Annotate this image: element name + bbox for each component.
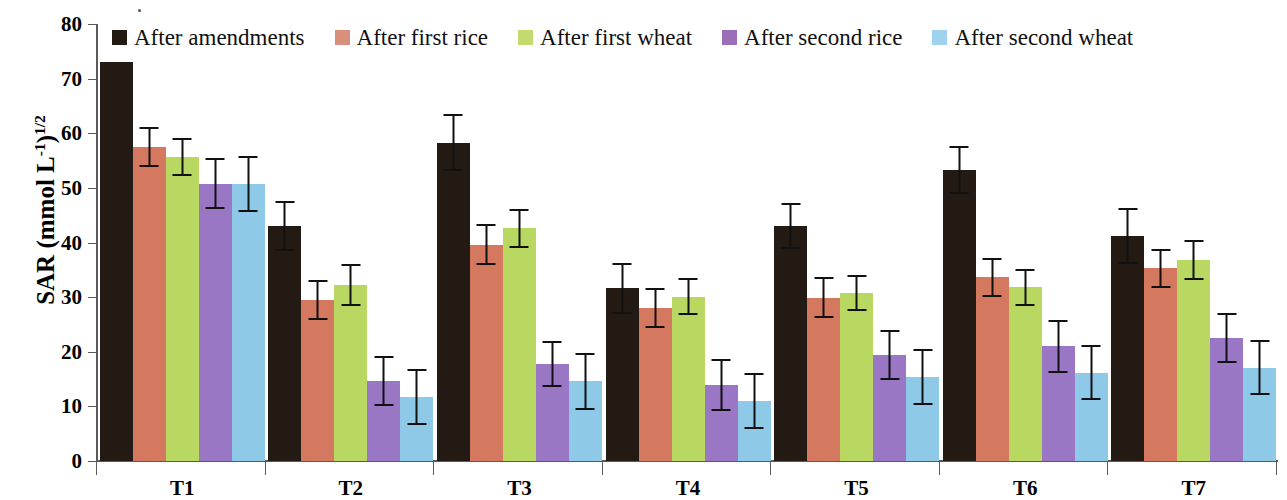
bar[interactable] bbox=[437, 143, 470, 461]
error-bar-cap-bottom bbox=[1217, 361, 1236, 363]
bar[interactable] bbox=[976, 277, 1009, 461]
error-bar-cap-bottom bbox=[576, 408, 595, 410]
bar-group bbox=[435, 24, 604, 461]
error-bar-stem bbox=[1057, 320, 1059, 372]
bar[interactable] bbox=[232, 184, 265, 461]
error-bar bbox=[206, 158, 225, 208]
y-axis-tick-label: 50 bbox=[22, 176, 82, 201]
error-bar bbox=[444, 114, 463, 171]
error-bar-stem bbox=[1259, 340, 1261, 396]
bar-slot bbox=[873, 24, 906, 461]
bar[interactable] bbox=[774, 226, 807, 461]
error-bar-stem bbox=[1024, 269, 1026, 306]
error-bar-cap-bottom bbox=[173, 174, 192, 176]
error-bar-stem bbox=[1090, 345, 1092, 400]
bar[interactable] bbox=[470, 245, 503, 461]
bar[interactable] bbox=[1177, 260, 1210, 461]
bar[interactable] bbox=[301, 300, 334, 461]
error-bar-stem bbox=[214, 158, 216, 208]
error-bar bbox=[781, 203, 800, 249]
error-bar-cap-top bbox=[847, 275, 866, 277]
error-bar-stem bbox=[720, 359, 722, 410]
error-bar-cap-bottom bbox=[477, 263, 496, 265]
x-axis-labels: T1T2T3T4T5T6T7 bbox=[98, 476, 1278, 500]
error-bar bbox=[407, 369, 426, 425]
x-axis-label: T7 bbox=[1109, 476, 1278, 500]
error-bar-cap-top bbox=[1184, 240, 1203, 242]
error-bar-cap-top bbox=[1151, 249, 1170, 251]
bar-slot bbox=[906, 24, 939, 461]
y-axis-tick bbox=[88, 133, 97, 134]
bar[interactable] bbox=[1009, 287, 1042, 461]
bar[interactable] bbox=[639, 308, 672, 461]
bar-slot bbox=[639, 24, 672, 461]
error-bar-stem bbox=[856, 275, 858, 311]
bar[interactable] bbox=[503, 228, 536, 461]
bar-slot bbox=[503, 24, 536, 461]
error-bar bbox=[374, 356, 393, 406]
error-bar-stem bbox=[790, 203, 792, 249]
error-bar-cap-top bbox=[880, 330, 899, 332]
error-bar bbox=[1151, 249, 1170, 288]
error-bar-cap-bottom bbox=[1082, 398, 1101, 400]
error-bar-cap-top bbox=[275, 201, 294, 203]
error-bar-cap-top bbox=[781, 203, 800, 205]
bar[interactable] bbox=[268, 226, 301, 461]
error-bar-cap-top bbox=[239, 156, 258, 158]
bar-slot bbox=[301, 24, 334, 461]
bar[interactable] bbox=[166, 157, 199, 461]
x-axis-label: T3 bbox=[435, 476, 604, 500]
error-bar-cap-top bbox=[510, 209, 529, 211]
error-bar bbox=[613, 263, 632, 313]
bar[interactable] bbox=[807, 298, 840, 461]
error-bar-stem bbox=[247, 156, 249, 212]
bar-slot bbox=[199, 24, 232, 461]
error-bar-cap-top bbox=[341, 264, 360, 266]
x-axis-ticks bbox=[96, 462, 1278, 476]
error-bar-cap-top bbox=[950, 146, 969, 148]
error-bar-cap-bottom bbox=[1049, 371, 1068, 373]
bar[interactable] bbox=[133, 147, 166, 461]
error-bar bbox=[1016, 269, 1035, 306]
error-bar-cap-bottom bbox=[543, 385, 562, 387]
error-bar bbox=[1118, 208, 1137, 265]
bar-slot bbox=[943, 24, 976, 461]
error-bar-stem bbox=[416, 369, 418, 425]
bar[interactable] bbox=[943, 170, 976, 461]
error-bar bbox=[847, 275, 866, 311]
error-bar bbox=[679, 278, 698, 315]
bar-slot bbox=[976, 24, 1009, 461]
error-bar-stem bbox=[687, 278, 689, 315]
y-axis-tick-label: 30 bbox=[22, 285, 82, 310]
bar-slot bbox=[100, 24, 133, 461]
error-bar-stem bbox=[350, 264, 352, 307]
bar[interactable] bbox=[334, 285, 367, 461]
error-bar-stem bbox=[148, 127, 150, 166]
error-bar-stem bbox=[823, 277, 825, 317]
error-bar bbox=[308, 280, 327, 320]
error-bar-cap-bottom bbox=[613, 312, 632, 314]
bar-group bbox=[604, 24, 773, 461]
bar[interactable] bbox=[672, 297, 705, 461]
bar-slot bbox=[166, 24, 199, 461]
error-bar-cap-top bbox=[913, 349, 932, 351]
error-bar bbox=[646, 288, 665, 327]
bar[interactable] bbox=[1111, 236, 1144, 461]
error-bar-cap-bottom bbox=[1151, 286, 1170, 288]
bar[interactable] bbox=[100, 62, 133, 461]
error-bar-stem bbox=[551, 341, 553, 387]
bar[interactable] bbox=[606, 288, 639, 461]
error-bar-cap-top bbox=[613, 263, 632, 265]
error-bar-stem bbox=[1160, 249, 1162, 288]
x-axis-label: T5 bbox=[772, 476, 941, 500]
bar[interactable] bbox=[840, 293, 873, 461]
error-bar bbox=[341, 264, 360, 307]
bar[interactable] bbox=[1144, 268, 1177, 461]
error-bar-cap-bottom bbox=[407, 423, 426, 425]
error-bar bbox=[983, 258, 1002, 297]
bar-slot bbox=[1144, 24, 1177, 461]
bar[interactable] bbox=[199, 184, 232, 461]
bar-slot bbox=[437, 24, 470, 461]
error-bar-cap-top bbox=[712, 359, 731, 361]
error-bar-stem bbox=[889, 330, 891, 380]
